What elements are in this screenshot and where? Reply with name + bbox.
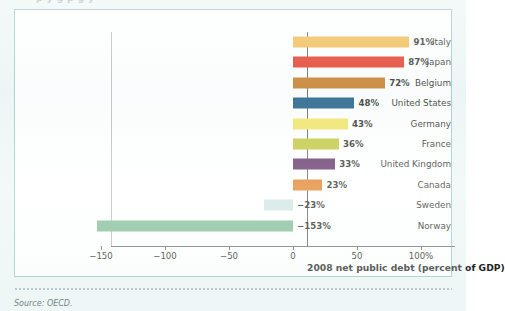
bar (293, 98, 354, 109)
x-axis-tick (229, 246, 230, 250)
bar (293, 118, 348, 129)
x-axis-tick-label: 50 (352, 251, 363, 261)
category-label: France (365, 139, 451, 149)
bar (293, 159, 335, 170)
bar (293, 57, 404, 68)
bar-value-label: 87% (408, 57, 429, 67)
bar-value-label: 43% (352, 119, 373, 129)
x-axis-tick-label: 100% (409, 251, 434, 261)
bar (264, 200, 293, 211)
x-axis-tick (101, 246, 102, 250)
x-axis-tick (293, 246, 294, 250)
bar (293, 77, 385, 88)
x-axis-tick (165, 246, 166, 250)
plot-left-rule (111, 32, 112, 246)
bar (97, 220, 293, 231)
bar-value-label: 23% (326, 180, 347, 190)
bar (293, 179, 322, 190)
x-axis-tick (357, 246, 358, 250)
category-label: Canada (365, 180, 451, 190)
x-axis-tick (421, 246, 422, 250)
bar-value-label: 33% (339, 159, 360, 169)
x-axis-title: 2008 net public debt (percent of GDP) (307, 262, 505, 273)
x-axis-tick-label: −150 (89, 251, 113, 261)
category-label: Sweden (365, 200, 451, 210)
bar-value-label: 91% (413, 37, 434, 47)
bar (293, 139, 339, 150)
figure-frame: ItalyJapanBelgiumUnited StatesGermanyFra… (14, 9, 452, 277)
cut-off-caption: p y g p g y (36, 0, 436, 4)
bar-value-label: 72% (389, 78, 410, 88)
x-axis-tick-label: 0 (290, 251, 295, 261)
category-label: United Kingdom (365, 159, 451, 169)
x-axis-line (111, 246, 455, 247)
source-note: Source: OECD. (14, 299, 73, 308)
bar-value-label: 48% (358, 98, 379, 108)
bar-value-label: −23% (297, 200, 325, 210)
x-axis-tick-label: −50 (220, 251, 238, 261)
bar-value-label: −153% (297, 221, 331, 231)
dotted-divider (14, 288, 452, 290)
category-label: Germany (365, 119, 451, 129)
bar-value-label: 36% (343, 139, 364, 149)
x-axis-tick-label: −100 (153, 251, 177, 261)
bar (293, 37, 409, 48)
category-label: Norway (365, 221, 451, 231)
